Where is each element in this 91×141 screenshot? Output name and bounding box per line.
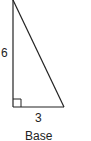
height-label: 6 (1, 46, 8, 60)
base-label: 3 (35, 111, 42, 125)
base-caption: Base (25, 129, 53, 141)
right-triangle-diagram: 6 3 Base (0, 0, 91, 141)
right-angle-marker-icon (13, 99, 21, 107)
hypotenuse (13, 0, 64, 107)
